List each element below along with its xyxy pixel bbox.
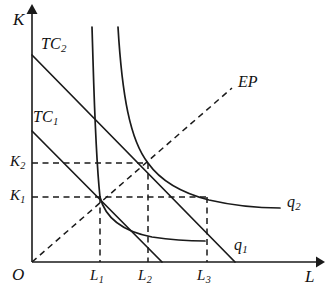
isocost-label-tc1: TC1 (33, 109, 58, 127)
isoquant-label-q1-subscript: 1 (242, 243, 248, 255)
y-tick-label-k1: K1 (10, 188, 25, 205)
x-tick-label-l3-subscript: 3 (205, 274, 210, 285)
x-tick-label-l1: L1 (90, 268, 104, 285)
isocost-label-tc1-base: TC (33, 108, 53, 125)
x-tick-label-l3: L3 (197, 268, 211, 285)
y-tick-label-k1-base: K (10, 187, 20, 203)
expansion-path-label: EP (238, 74, 258, 90)
expansion-path-group (32, 88, 232, 262)
isoquant-label-q2: q2 (287, 194, 301, 212)
isoquant-label-q1-base: q (234, 236, 242, 253)
origin-label: O (12, 266, 24, 283)
y-axis-arrow-icon (27, 4, 38, 14)
expansion-path-line (32, 88, 232, 262)
isocost-label-tc1-subscript: 1 (53, 115, 59, 127)
x-tick-label-l1-subscript: 1 (98, 274, 103, 285)
x-tick-label-l2-subscript: 2 (146, 274, 151, 285)
x-tick-label-l2: L2 (138, 268, 152, 285)
axes-group (27, 4, 326, 268)
isoquant-label-q1: q1 (234, 237, 248, 255)
isocost-label-tc2-subscript: 2 (61, 42, 67, 54)
x-axis-arrow-icon (316, 257, 325, 268)
y-tick-label-k1-subscript: 1 (20, 194, 25, 205)
isocost-label-tc2-base: TC (41, 35, 61, 52)
y-tick-label-k2-subscript: 2 (20, 160, 25, 171)
x-axis-label: L (305, 268, 314, 285)
isocost-label-tc2: TC2 (41, 36, 66, 54)
y-axis-label: K (13, 11, 24, 28)
isoquant-label-q2-base: q (287, 193, 295, 210)
y-tick-label-k2-base: K (10, 153, 20, 169)
guide-lines-group (32, 163, 207, 262)
isoquant-curves-group (92, 27, 280, 241)
isoquant-isocost-figure: K L O TC2 TC1 q2 q1 EP K2 K1 L1 L2 L3 (0, 0, 329, 303)
y-tick-label-k2: K2 (10, 154, 25, 171)
isoquant-label-q2-subscript: 2 (295, 200, 301, 212)
